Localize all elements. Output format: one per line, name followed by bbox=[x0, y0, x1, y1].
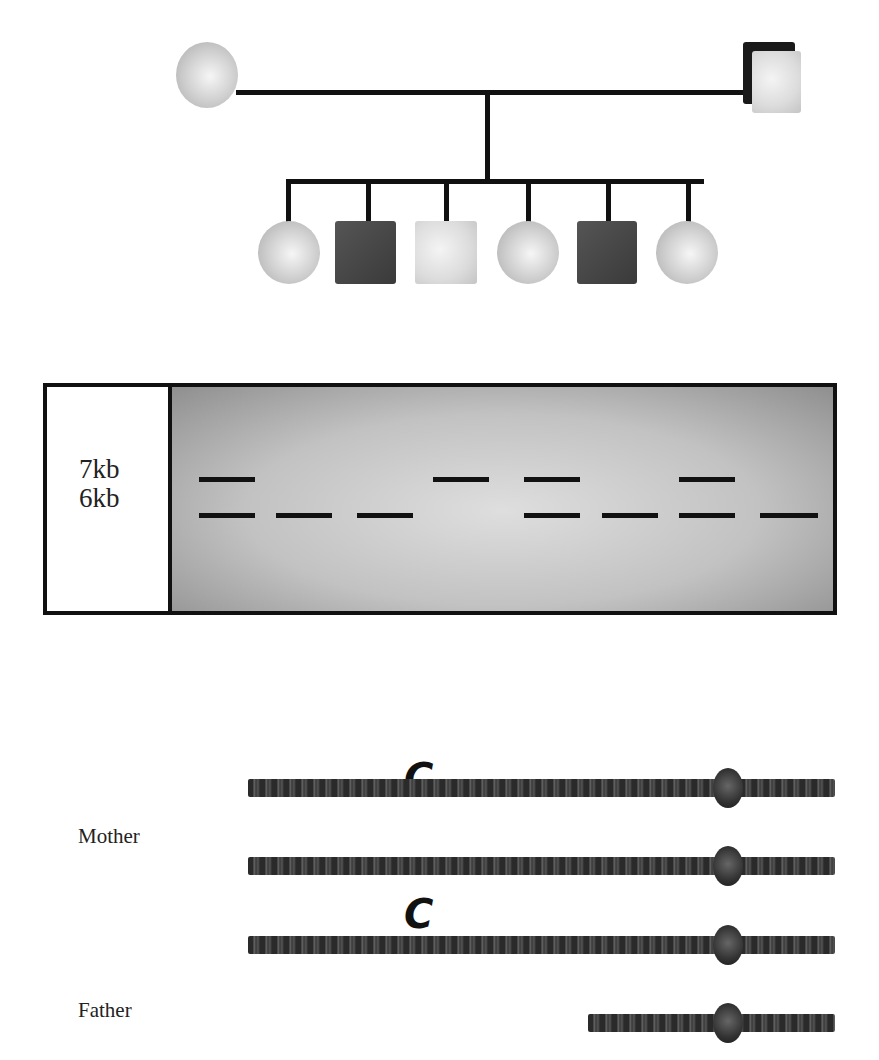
marker-6kb-label: 6kb bbox=[79, 485, 120, 512]
band-lane6-6kb bbox=[602, 513, 658, 518]
band-lane3-6kb bbox=[357, 513, 413, 518]
child-4-female bbox=[497, 221, 559, 284]
band-lane5-6kb bbox=[524, 513, 580, 518]
allele-c-marker: C bbox=[404, 894, 433, 934]
size-marker-panel: 7kb 6kb bbox=[47, 387, 172, 611]
centromere-icon bbox=[713, 1003, 743, 1043]
mother-label: Mother bbox=[78, 824, 140, 849]
southern-blot-gel: 7kb 6kb bbox=[43, 383, 837, 615]
band-lane2-6kb bbox=[276, 513, 332, 518]
child-5-male-affected bbox=[577, 221, 637, 284]
child-1-female bbox=[258, 221, 320, 284]
band-lane1-6kb bbox=[199, 513, 255, 518]
marker-7kb-label: 7kb bbox=[79, 456, 120, 483]
child-drop-line bbox=[286, 181, 291, 223]
mother-chromosome-1 bbox=[248, 779, 835, 797]
father-chromosome-1 bbox=[248, 936, 835, 954]
band-lane8-6kb bbox=[760, 513, 818, 518]
child-3-male bbox=[415, 221, 477, 284]
centromere-icon bbox=[713, 925, 743, 965]
band-lane7-7kb bbox=[679, 477, 735, 482]
centromere-icon bbox=[713, 846, 743, 886]
gel-lanes bbox=[172, 387, 833, 611]
father-symbol-face bbox=[752, 51, 801, 113]
father-label: Father bbox=[78, 998, 132, 1023]
child-drop-line bbox=[686, 181, 691, 223]
child-drop-line bbox=[526, 181, 531, 223]
descent-line bbox=[485, 92, 490, 183]
child-6-female bbox=[656, 221, 718, 284]
child-2-male-affected bbox=[335, 221, 396, 284]
father-symbol bbox=[743, 42, 801, 114]
centromere-icon bbox=[713, 768, 743, 808]
band-lane5-7kb bbox=[524, 477, 580, 482]
sibship-line bbox=[286, 179, 704, 184]
band-lane7-6kb bbox=[679, 513, 735, 518]
child-drop-line bbox=[606, 181, 611, 223]
mother-chromosome-2 bbox=[248, 857, 835, 875]
child-drop-line bbox=[366, 181, 371, 223]
marriage-line bbox=[236, 90, 748, 95]
child-drop-line bbox=[444, 181, 449, 223]
band-lane1-7kb bbox=[199, 477, 255, 482]
father-chromosome-2-short bbox=[588, 1014, 835, 1032]
band-lane4-7kb bbox=[433, 477, 489, 482]
mother-symbol bbox=[176, 42, 238, 108]
